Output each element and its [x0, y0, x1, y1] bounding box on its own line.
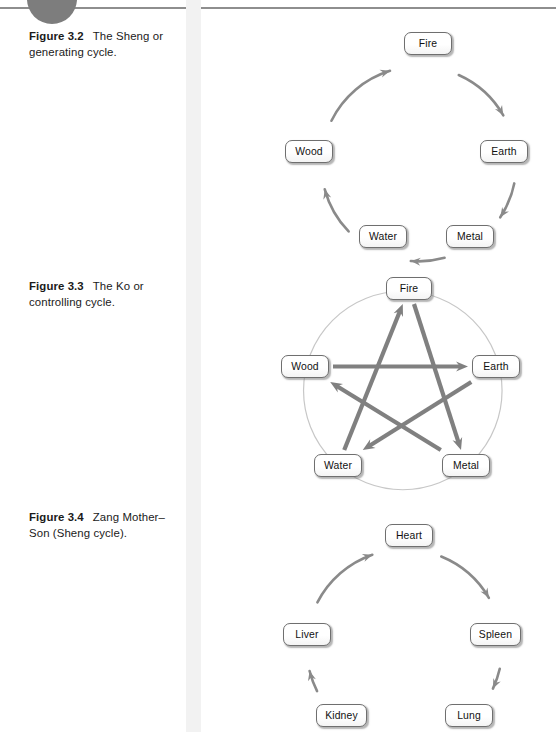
sheng-node-earth: Earth: [480, 140, 528, 163]
sheng-node-water: Water: [359, 225, 407, 248]
zang-node-spleen: Spleen: [470, 623, 521, 646]
figure-caption-3-4: Figure 3.4Zang Mother–Son (Sheng cycle).: [29, 510, 181, 541]
sheng-node-wood: Wood: [285, 140, 333, 163]
sheng-node-label-fire: Fire: [419, 38, 438, 49]
ko-node-label-metal: Metal: [453, 460, 479, 471]
zang-node-label-kidney: Kidney: [325, 710, 358, 721]
sheng-node-label-metal: Metal: [457, 231, 483, 242]
ko-node-label-water: Water: [324, 460, 352, 471]
figure-sheng-cycle: FireEarthMetalWaterWood: [258, 18, 556, 268]
ko-node-earth: Earth: [472, 355, 520, 378]
chapter-tab-circle: [27, 0, 77, 24]
sheng-node-label-water: Water: [369, 231, 397, 242]
figure-number-3-4: Figure 3.4: [29, 511, 84, 523]
sheng-node-fire: Fire: [404, 32, 452, 55]
figure-number-3-3: Figure 3.3: [29, 280, 84, 292]
figure-zang-cycle: HeartSpleenLungKidneyLiver: [258, 503, 556, 732]
zang-node-label-lung: Lung: [457, 710, 481, 721]
zang-node-label-liver: Liver: [295, 629, 318, 640]
ko-node-label-wood: Wood: [291, 361, 319, 372]
cycle-arrow-liver-to-heart: [317, 555, 372, 603]
column-band: [186, 0, 201, 732]
book-page: Figure 3.2The Sheng or generating cycle.…: [0, 0, 556, 732]
sheng-node-metal: Metal: [446, 225, 494, 248]
ko-node-water: Water: [314, 454, 362, 477]
zang-node-label-spleen: Spleen: [479, 629, 512, 640]
zang-node-lung: Lung: [445, 704, 493, 727]
ko-node-label-earth: Earth: [483, 361, 509, 372]
sheng-node-label-wood: Wood: [295, 146, 323, 157]
cycle-arrow-heart-to-spleen: [441, 557, 489, 598]
ko-node-fire: Fire: [386, 277, 432, 300]
figure-ko-cycle: FireEarthMetalWaterWood: [258, 268, 556, 503]
ko-node-wood: Wood: [281, 355, 329, 378]
figure-number-3-2: Figure 3.2: [29, 30, 84, 42]
zang-node-label-heart: Heart: [396, 530, 422, 541]
header-rule: [0, 7, 556, 9]
ko-arrow-fire-to-metal: [414, 304, 459, 443]
ko-node-metal: Metal: [442, 454, 490, 477]
ko-arrow-metal-to-wood: [337, 386, 441, 450]
figure-caption-3-2: Figure 3.2The Sheng or generating cycle.: [29, 29, 181, 60]
zang-node-liver: Liver: [283, 623, 331, 646]
ko-arrow-water-to-fire: [344, 311, 400, 450]
figure-caption-3-3: Figure 3.3The Ko or controlling cycle.: [29, 279, 181, 310]
ko-cycle-arrows: [258, 268, 556, 503]
sheng-node-label-earth: Earth: [491, 146, 517, 157]
ko-node-label-fire: Fire: [400, 283, 419, 294]
cycle-arrow-wood-to-fire: [331, 71, 390, 121]
zang-node-kidney: Kidney: [316, 704, 367, 727]
zang-node-heart: Heart: [385, 524, 433, 547]
